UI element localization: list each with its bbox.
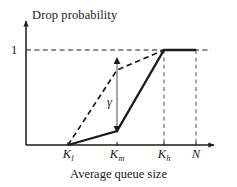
series-solid-gentle	[68, 50, 196, 145]
x-axis-title: Average queue size	[0, 168, 237, 181]
y-axis-title: Drop probability	[32, 9, 117, 22]
drop-probability-figure: Drop probability 1 Kl Km Kh N γ Average …	[0, 0, 237, 187]
x-tick-label-kh: Kh	[158, 148, 171, 161]
x-tick-label-kh-base: K	[158, 147, 166, 161]
x-tick-label-kl: Kl	[63, 148, 74, 161]
x-tick-label-n-base: N	[192, 147, 200, 161]
gamma-arrow-up-head	[114, 57, 121, 64]
y-tick-label-one: 1	[11, 44, 17, 57]
x-tick-label-km: Km	[110, 148, 124, 161]
x-tick-label-kl-sub: l	[71, 153, 73, 163]
x-tick-label-n: N	[192, 148, 200, 161]
gamma-annotation-label: γ	[107, 96, 112, 109]
x-tick-label-kl-base: K	[63, 147, 71, 161]
x-tick-label-km-base: K	[110, 147, 118, 161]
x-tick-label-kh-sub: h	[166, 153, 170, 163]
x-tick-label-km-sub: m	[118, 153, 124, 163]
